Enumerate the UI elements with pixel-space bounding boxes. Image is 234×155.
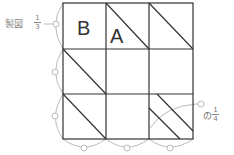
cell-b-label: B <box>77 17 90 39</box>
quilt-diagram: B A <box>0 0 234 155</box>
guide-dots <box>52 21 204 151</box>
cell-a-label: A <box>110 25 124 47</box>
